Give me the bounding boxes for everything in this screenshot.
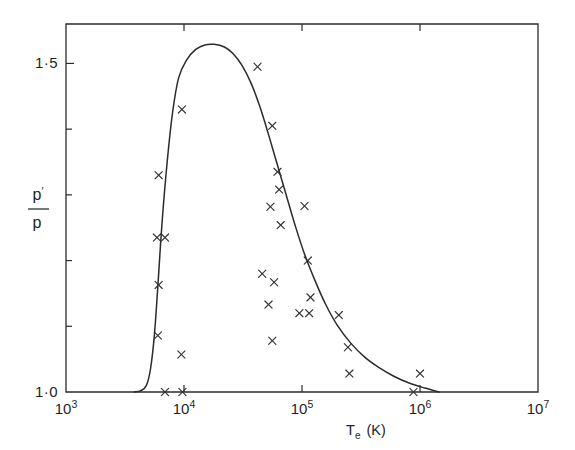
theory-curve-group	[134, 44, 439, 392]
y-tick-label: 1·0	[35, 383, 58, 400]
x-axis-tick-labels: 103104105106107	[55, 398, 550, 417]
x-axis-title-base: T	[346, 422, 355, 438]
figure-panel: 103104105106107 1·01·5 Te(K) p′ p	[0, 0, 575, 450]
data-point-marker	[269, 337, 276, 344]
x-tick-label: 107	[527, 398, 550, 417]
x-tick-label: 105	[291, 398, 314, 417]
data-point-marker	[154, 332, 161, 339]
data-point-marker	[301, 202, 308, 209]
data-point-marker	[276, 186, 283, 193]
x-tick-label: 106	[409, 398, 432, 417]
data-point-marker	[307, 294, 314, 301]
y-axis-title: p′ p	[28, 185, 49, 231]
data-point-marker	[346, 370, 353, 377]
data-point-marker	[178, 351, 185, 358]
x-tick-label: 103	[55, 398, 78, 417]
y-axis-ticks	[66, 63, 74, 326]
data-point-marker	[335, 312, 342, 319]
data-point-marker	[155, 172, 162, 179]
data-point-marker	[254, 63, 261, 70]
data-point-marker	[296, 310, 303, 317]
svg-text:p′: p′	[33, 185, 44, 203]
data-point-marker	[265, 301, 272, 308]
y-axis-title-denominator: p	[33, 214, 42, 231]
chart-svg: 103104105106107 1·01·5 Te(K) p′ p	[0, 0, 575, 450]
data-point-marker	[178, 106, 185, 113]
svg-text:Te(K): Te(K)	[346, 422, 386, 441]
data-point-marker	[306, 310, 313, 317]
y-axis-title-prime: ′	[41, 185, 43, 197]
data-point-marker	[267, 203, 274, 210]
y-axis-title-numerator: p	[33, 186, 42, 203]
data-point-marker	[344, 344, 351, 351]
data-point-marker	[270, 279, 277, 286]
x-axis-title-unit: (K)	[367, 422, 386, 438]
data-point-marker	[153, 234, 160, 241]
theory-curve	[134, 44, 439, 392]
x-axis-title-subscript: e	[355, 430, 361, 441]
x-tick-label: 104	[173, 398, 196, 417]
data-point-marker	[259, 270, 266, 277]
data-point-marker	[161, 234, 168, 241]
x-axis-title: Te(K)	[346, 422, 386, 441]
data-point-marker	[277, 221, 284, 228]
data-point-markers	[153, 63, 423, 395]
data-point-marker	[416, 370, 423, 377]
data-point-marker	[269, 122, 276, 129]
y-tick-label: 1·5	[35, 54, 58, 71]
